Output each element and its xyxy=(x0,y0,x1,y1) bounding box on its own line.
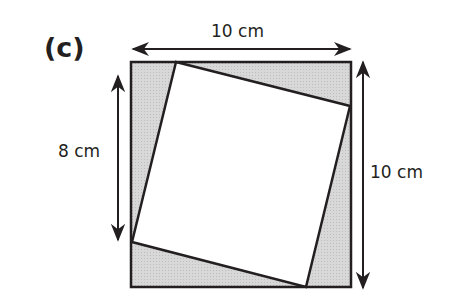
part-label: (c) xyxy=(44,32,85,63)
left-height-label: 8 cm xyxy=(58,141,100,161)
top-width-label: 10 cm xyxy=(211,21,264,41)
right-height-label: 10 cm xyxy=(370,162,423,182)
